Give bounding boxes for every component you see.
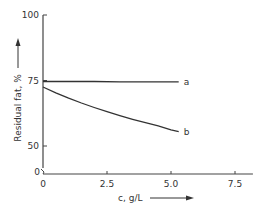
series-line-b: [43, 87, 179, 132]
x-axis-label: c, g/L: [118, 193, 142, 203]
y-axis-label: Residual fat, %: [13, 74, 23, 142]
y-tick-label: 75: [28, 76, 39, 86]
x-tick-label: 0: [40, 179, 46, 189]
series-label-b: b: [184, 127, 190, 137]
x-tick-label: 7.5: [228, 179, 242, 189]
y-break-label: 0: [34, 167, 40, 177]
series-label-a: a: [184, 77, 190, 87]
x-axis-label-group: c, g/L: [118, 193, 194, 203]
y-axis-label-group: Residual fat, %: [13, 38, 23, 142]
x-tick-label: 2.5: [100, 179, 114, 189]
y-tick-label: 50: [28, 141, 40, 151]
x-tick-label: 5.0: [164, 179, 179, 189]
x-axis-arrow-icon: [150, 196, 194, 201]
series-group: ab: [43, 77, 190, 137]
axes: [41, 15, 253, 174]
y-axis-break-mark: [41, 169, 46, 174]
y-axis-arrow-icon: [16, 38, 21, 68]
chart: 5075100 02.55.07.5 ab 0 Residual fat, % …: [0, 0, 261, 208]
y-tick-label: 100: [22, 10, 39, 20]
